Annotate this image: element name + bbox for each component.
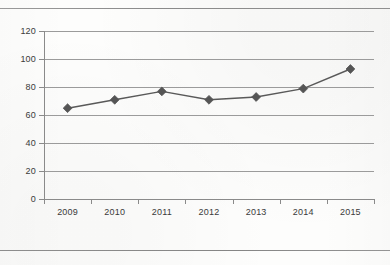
- x-tick: [374, 199, 375, 204]
- x-tick: [185, 199, 186, 204]
- x-tick: [280, 199, 281, 204]
- data-point-2014: [299, 84, 308, 93]
- series-markers: [63, 65, 355, 113]
- x-tick: [233, 199, 234, 204]
- line-chart: 020406080100120 200920102011201220132014…: [0, 10, 390, 248]
- page-rule-bottom: [0, 250, 390, 251]
- x-tick: [91, 199, 92, 204]
- data-point-2012: [205, 95, 214, 104]
- x-tick: [138, 199, 139, 204]
- y-tick-120: [39, 31, 44, 32]
- page-rule-top: [0, 8, 390, 9]
- scanned-page: 020406080100120 200920102011201220132014…: [0, 0, 390, 265]
- data-point-2015: [346, 65, 355, 74]
- y-tick-40: [39, 143, 44, 144]
- y-tick-80: [39, 87, 44, 88]
- data-point-2011: [157, 87, 166, 96]
- x-tick: [44, 199, 45, 204]
- x-tick: [327, 199, 328, 204]
- series-layer: [0, 10, 390, 248]
- data-point-2013: [252, 93, 261, 102]
- data-point-2009: [63, 104, 72, 113]
- data-point-2010: [110, 95, 119, 104]
- y-tick-100: [39, 59, 44, 60]
- y-tick-60: [39, 115, 44, 116]
- y-tick-20: [39, 171, 44, 172]
